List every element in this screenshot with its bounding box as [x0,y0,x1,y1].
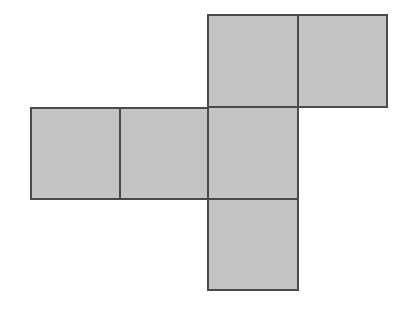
cube-face-middle-left [30,107,121,200]
cube-face-bottom-center [207,198,299,291]
cube-face-top-center [207,14,299,108]
cube-net-diagram [0,0,408,312]
cube-face-middle-center-left [119,107,209,200]
cube-face-top-right [297,14,388,108]
cube-face-middle-center [207,106,299,200]
